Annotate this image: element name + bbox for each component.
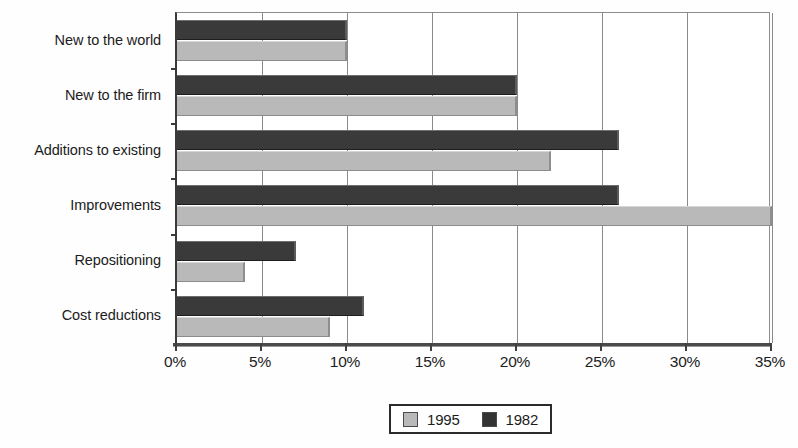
x-axis-tick — [770, 343, 772, 351]
y-axis-tick — [171, 178, 177, 180]
category-label: New to the world — [0, 12, 168, 67]
bar-group — [177, 234, 769, 289]
x-axis-tick-label: 20% — [500, 353, 530, 371]
bar-group — [177, 123, 769, 178]
x-axis-tick-label: 5% — [249, 353, 271, 371]
x-axis-tick — [600, 343, 602, 351]
legend-swatch-icon — [482, 412, 497, 427]
x-axis-tick-label: 0% — [164, 353, 186, 371]
legend-entry: 1982 — [482, 411, 539, 428]
bar-1982 — [177, 75, 517, 95]
bar-1995 — [177, 96, 517, 116]
bar-1982 — [177, 241, 296, 261]
plot-area — [175, 12, 770, 343]
x-axis-tick-label: 15% — [415, 353, 445, 371]
bar-group — [177, 13, 769, 68]
x-axis-tick — [430, 343, 432, 351]
legend-swatch-icon — [403, 412, 418, 427]
x-axis-tick — [515, 343, 517, 351]
bar-1982 — [177, 20, 347, 40]
y-axis-tick — [171, 123, 177, 125]
bar-groups — [177, 13, 769, 343]
x-axis-tick — [685, 343, 687, 351]
category-label: Repositioning — [0, 233, 168, 288]
legend-label: 1995 — [427, 411, 460, 428]
bar-1995 — [177, 151, 551, 171]
legend-label: 1982 — [506, 411, 539, 428]
x-axis-line — [173, 343, 772, 347]
category-axis-labels: New to the worldNew to the firmAdditions… — [0, 12, 168, 343]
y-axis-tick — [171, 68, 177, 70]
x-axis-tick-label: 35% — [755, 353, 785, 371]
category-label: New to the firm — [0, 67, 168, 122]
bar-group — [177, 178, 769, 233]
bar-1982 — [177, 130, 619, 150]
bar-group — [177, 68, 769, 123]
bar-chart-figure: New to the worldNew to the firmAdditions… — [0, 0, 798, 448]
category-label: Improvements — [0, 178, 168, 233]
category-label: Additions to existing — [0, 122, 168, 177]
x-axis-tick-label: 25% — [585, 353, 615, 371]
x-axis-tick-label: 10% — [330, 353, 360, 371]
bar-1982 — [177, 296, 364, 316]
bar-1995 — [177, 206, 772, 226]
y-axis-tick — [171, 234, 177, 236]
category-label: Cost reductions — [0, 288, 168, 343]
bar-1995 — [177, 41, 347, 61]
legend: 19951982 — [389, 404, 552, 434]
gridline — [772, 13, 773, 343]
x-axis-tick — [175, 343, 177, 351]
x-axis-tick — [345, 343, 347, 351]
y-axis-tick — [171, 289, 177, 291]
bar-1995 — [177, 317, 330, 337]
x-axis-tick — [260, 343, 262, 351]
bar-group — [177, 289, 769, 344]
x-axis-tick-label: 30% — [670, 353, 700, 371]
legend-entry: 1995 — [403, 411, 460, 428]
bar-1982 — [177, 185, 619, 205]
bar-1995 — [177, 262, 245, 282]
